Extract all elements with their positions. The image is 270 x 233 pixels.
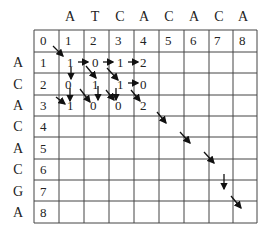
score-cell: 0	[92, 55, 99, 71]
score-cell: 0	[65, 77, 72, 93]
row-index-cell: 5	[40, 141, 47, 157]
left-seq-letter: C	[8, 162, 28, 178]
score-cell: 0	[90, 98, 97, 114]
header-cell: 6	[190, 33, 197, 49]
score-cell: 1	[117, 55, 124, 71]
header-cell: 8	[239, 33, 246, 49]
top-seq-letter: T	[85, 9, 105, 25]
left-seq-letter: C	[8, 77, 28, 93]
score-cell: 0	[140, 77, 147, 93]
header-cell: 0	[40, 33, 47, 49]
left-seq-letter: A	[8, 55, 28, 71]
row-index-cell: 4	[40, 119, 47, 135]
score-cell: 2	[140, 55, 147, 71]
row-index-cell: 2	[40, 77, 47, 93]
top-seq-letter: C	[209, 9, 229, 25]
left-seq-letter: A	[8, 98, 28, 114]
left-seq-letter: A	[8, 205, 28, 221]
top-seq-letter: C	[110, 9, 130, 25]
top-seq-letter: A	[60, 9, 80, 25]
score-cell: 2	[140, 98, 147, 114]
left-seq-letter: G	[8, 184, 28, 200]
header-cell: 1	[65, 33, 72, 49]
score-cell: 1	[117, 77, 124, 93]
row-index-cell: 8	[40, 205, 47, 221]
score-cell: 1	[92, 77, 99, 93]
top-seq-letter: A	[184, 9, 204, 25]
row-index-cell: 3	[40, 98, 47, 114]
traceback-arrows	[53, 46, 241, 208]
score-cell: 1	[67, 55, 74, 71]
top-seq-letter: C	[159, 9, 179, 25]
header-cell: 4	[140, 33, 147, 49]
header-cell: 2	[90, 33, 97, 49]
header-cell: 3	[115, 33, 122, 49]
row-index-cell: 6	[40, 162, 47, 178]
top-seq-letter: A	[233, 9, 253, 25]
left-seq-letter: A	[8, 141, 28, 157]
score-cell: 1	[67, 98, 74, 114]
score-cell: 0	[115, 98, 122, 114]
left-seq-letter: C	[8, 119, 28, 135]
top-seq-letter: A	[134, 9, 154, 25]
row-index-cell: 1	[40, 55, 47, 71]
row-index-cell: 7	[40, 184, 47, 200]
header-cell: 5	[165, 33, 172, 49]
header-cell: 7	[214, 33, 221, 49]
